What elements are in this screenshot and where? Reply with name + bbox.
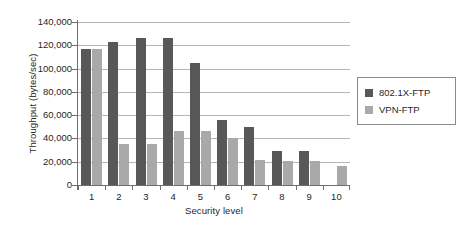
legend-entry: VPN-FTP xyxy=(365,101,449,118)
x-axis-tick-label: 2 xyxy=(104,191,134,203)
x-axis-tick-label: 8 xyxy=(267,191,297,203)
y-axis-tick-label: 120,000 xyxy=(16,40,72,50)
x-axis-tick-mark xyxy=(268,185,269,190)
legend-label: VPN-FTP xyxy=(379,104,420,115)
x-axis-tick-mark xyxy=(187,185,188,190)
x-axis-tick-mark xyxy=(105,185,106,190)
x-axis-tick-label: 9 xyxy=(294,191,324,203)
legend-entry: 802.1X-FTP xyxy=(365,84,449,101)
y-axis-tick-label: 20,000 xyxy=(16,157,72,167)
x-axis-tick-label: 6 xyxy=(213,191,243,203)
x-axis-tick-labels: 12345678910 xyxy=(78,191,350,205)
x-axis-tick-mark xyxy=(214,185,215,190)
x-axis-tick-label: 4 xyxy=(158,191,188,203)
x-axis-tick-mark xyxy=(349,185,350,190)
y-axis-tick-label: 140,000 xyxy=(16,17,72,27)
x-axis-tick-mark xyxy=(78,185,79,190)
chart-legend: 802.1X-FTPVPN-FTP xyxy=(357,77,456,125)
x-axis-tick-mark xyxy=(132,185,133,190)
plot-area xyxy=(78,22,350,185)
y-axis-tick-label: 80,000 xyxy=(16,87,72,97)
x-axis-tick-mark xyxy=(323,185,324,190)
x-axis-tick-mark xyxy=(160,185,161,190)
legend-label: 802.1X-FTP xyxy=(379,87,430,98)
y-axis-tick-label: 0 xyxy=(16,180,72,190)
bar xyxy=(337,166,347,185)
x-axis-tick-label: 7 xyxy=(240,191,270,203)
x-axis-tick-label: 10 xyxy=(321,191,351,203)
x-axis-title: Security level xyxy=(78,205,350,216)
bar-chart-figure: Throughput (bytes/sec) 020,00040,00060,0… xyxy=(0,0,463,228)
legend-swatch-icon xyxy=(365,106,373,114)
legend-swatch-icon xyxy=(365,89,373,97)
x-axis-tick-label: 1 xyxy=(77,191,107,203)
x-axis-tick-label: 5 xyxy=(185,191,215,203)
x-axis-tick-mark xyxy=(241,185,242,190)
y-axis-tick-label: 60,000 xyxy=(16,110,72,120)
y-axis-tick-labels: 020,00040,00060,00080,000100,000120,0001… xyxy=(16,0,72,228)
y-axis-tick-label: 40,000 xyxy=(16,133,72,143)
y-axis-tick-label: 100,000 xyxy=(16,64,72,74)
bars-layer xyxy=(78,22,350,185)
x-axis-tick-label: 3 xyxy=(131,191,161,203)
x-axis-tick-mark xyxy=(296,185,297,190)
bar-group xyxy=(78,22,350,185)
